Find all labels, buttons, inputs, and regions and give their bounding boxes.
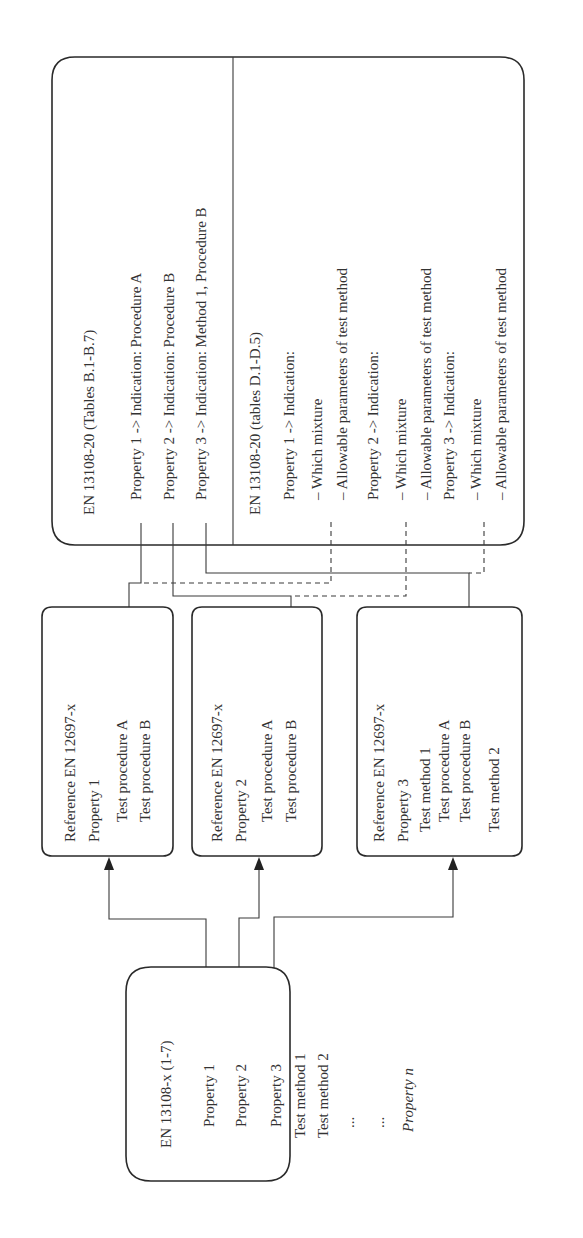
- reference-box-2: Reference EN 12697-x Property 2 Test pro…: [192, 607, 322, 856]
- reference-box-line: Test method 2: [486, 747, 502, 832]
- section-d-title: EN 13108-20 (tables D.1-D.5): [247, 332, 264, 515]
- en13108-20-box: EN 13108-20 (Tables B.1-B.7) Property 1 …: [52, 57, 524, 545]
- reference-box-line: Property 2: [233, 779, 249, 842]
- source-box-title: EN 13108-x (1-7): [158, 1041, 175, 1148]
- source-box-line: ...: [371, 1117, 387, 1128]
- connector-source-property-3: [274, 864, 453, 1025]
- reference-box-line: Test procedure A: [114, 720, 130, 822]
- source-box-line: Test method 2: [315, 1053, 331, 1138]
- reference-box-line: Property 3: [395, 779, 411, 842]
- section-b-title: EN 13108-20 (Tables B.1-B.7): [81, 330, 98, 515]
- reference-box-line: Test procedure B: [137, 720, 153, 822]
- section-b-line: Property 3 -> Indication: Method 1, Proc…: [193, 207, 209, 500]
- source-box-line: Property n: [400, 1068, 416, 1133]
- source-box-line: Property 3: [268, 1064, 284, 1127]
- source-box-line: Property 2: [233, 1064, 249, 1127]
- arrow-head-icon: [104, 857, 114, 870]
- section-d-line: Property 2 -> Indication:: [365, 351, 381, 500]
- reference-box-1: Reference EN 12697-x Property 1 Test pro…: [42, 607, 173, 856]
- reference-box-line: Test procedure B: [457, 720, 473, 822]
- reference-box-line: Test procedure A: [436, 720, 452, 822]
- section-d-line: – Which mixture: [309, 398, 325, 501]
- reference-box-line: Test procedure A: [259, 720, 275, 822]
- reference-box-line: Property 1: [86, 779, 102, 842]
- section-d-line: – Allowable parameters of test method: [418, 267, 434, 501]
- arrow-head-icon: [448, 857, 458, 870]
- source-box-line: Property 1: [201, 1064, 217, 1127]
- section-d-line: – Allowable parameters of test method: [493, 267, 509, 501]
- section-d-line: – Allowable parameters of test method: [334, 267, 350, 501]
- reference-box-title: Reference EN 12697-x: [371, 703, 387, 842]
- section-d-line: Property 1 -> Indication:: [281, 351, 297, 500]
- en13108-x-box: EN 13108-x (1-7) Property 1 Property 2 P…: [126, 967, 416, 1181]
- reference-box-title: Reference EN 12697-x: [62, 703, 78, 842]
- source-box-line: Test method 1: [292, 1053, 308, 1138]
- reference-box-3: Reference EN 12697-x Property 3 Test met…: [357, 607, 522, 856]
- reference-box-title: Reference EN 12697-x: [209, 703, 225, 842]
- diagram-canvas: EN 13108-20 (Tables B.1-B.7) Property 1 …: [0, 0, 583, 1238]
- arrow-head-icon: [254, 857, 264, 870]
- reference-box-line: Test method 1: [417, 747, 433, 832]
- section-d-line: Property 3 -> Indication:: [441, 351, 457, 500]
- section-d-line: – Which mixture: [393, 398, 409, 501]
- reference-box-line: Test procedure B: [283, 720, 299, 822]
- source-box-line: ...: [341, 1117, 357, 1128]
- section-b-line: Property 2 -> Indication: Procedure B: [161, 273, 177, 500]
- section-b-line: Property 1 -> Indication: Procedure A: [128, 273, 144, 500]
- section-d-line: – Which mixture: [468, 398, 484, 501]
